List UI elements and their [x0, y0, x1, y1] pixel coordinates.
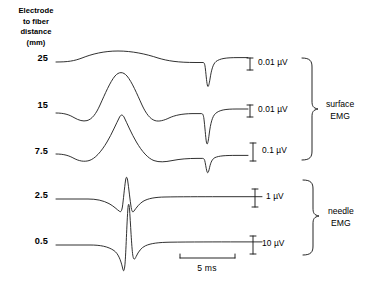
- time-scale-bar: [180, 254, 235, 258]
- trace-0-5mm: [56, 204, 262, 270]
- bracket-needle-emg: [303, 180, 319, 255]
- trace-25mm: [56, 51, 248, 86]
- amplitude-bar-0-5: [250, 236, 256, 254]
- emg-figure: Electrode to fiber distance (mm) 25 15 7…: [0, 0, 373, 290]
- trace-15mm: [56, 73, 248, 144]
- amplitude-bar-7-5: [250, 143, 256, 161]
- trace-7-5mm: [56, 115, 248, 173]
- amplitude-bar-2-5: [252, 189, 258, 207]
- waveform-canvas: [0, 0, 373, 290]
- bracket-surface-emg: [302, 58, 318, 160]
- trace-2-5mm: [56, 177, 262, 212]
- amplitude-bar-25: [247, 58, 253, 70]
- amplitude-bar-15: [247, 105, 253, 117]
- amplitude-scale-bars: [247, 58, 258, 254]
